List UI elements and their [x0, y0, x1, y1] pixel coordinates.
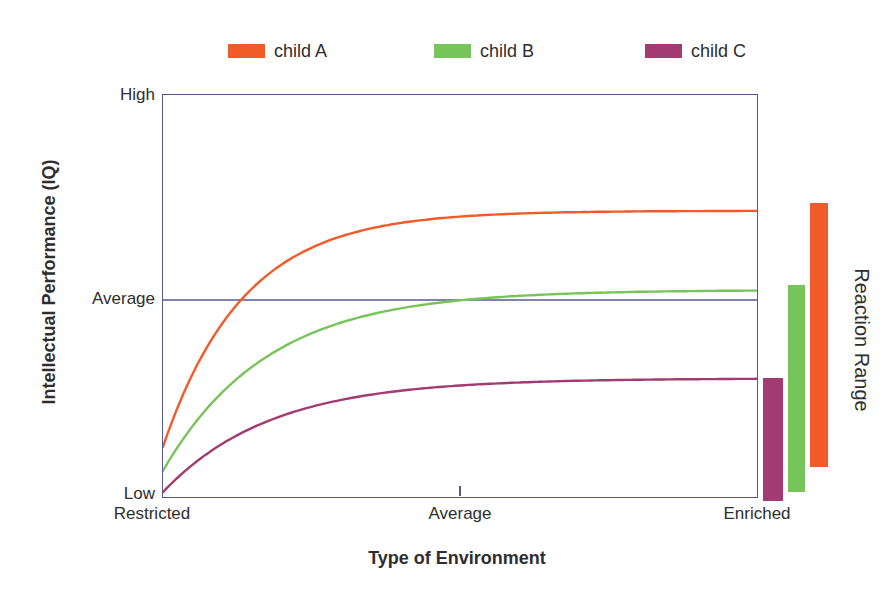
- legend-item-child-b: child B: [434, 42, 534, 60]
- y-axis-title: Intellectual Performance (IQ): [39, 92, 61, 472]
- legend-label-child-a: child A: [274, 42, 327, 60]
- x-tick-enriched: Enriched: [723, 504, 790, 524]
- x-tick-average: Average: [428, 504, 491, 524]
- x-tick-restricted: Restricted: [114, 504, 191, 524]
- legend-swatch-child-b: [434, 44, 471, 58]
- reaction-range-figure: child A child B child C Intellectual Per…: [0, 0, 892, 606]
- legend-label-child-c: child C: [691, 42, 746, 60]
- reaction-range-bar-child-b: [788, 285, 805, 492]
- y-tick-high: High: [0, 85, 155, 105]
- reaction-range-bar-child-c: [763, 378, 783, 501]
- y-tick-low: Low: [0, 484, 155, 504]
- legend-item-child-a: child A: [228, 42, 327, 60]
- legend-swatch-child-a: [228, 44, 265, 58]
- plot-area: [162, 94, 758, 498]
- reaction-range-bar-child-a: [810, 203, 828, 467]
- curves-svg: [163, 95, 757, 497]
- legend-swatch-child-c: [645, 44, 682, 58]
- y-tick-average: Average: [0, 289, 155, 309]
- reaction-range-label: Reaction Range: [849, 210, 873, 470]
- x-axis-title: Type of Environment: [368, 548, 546, 569]
- legend-label-child-b: child B: [480, 42, 534, 60]
- x-axis-midpoint-tick: [459, 486, 461, 496]
- legend-item-child-c: child C: [645, 42, 746, 60]
